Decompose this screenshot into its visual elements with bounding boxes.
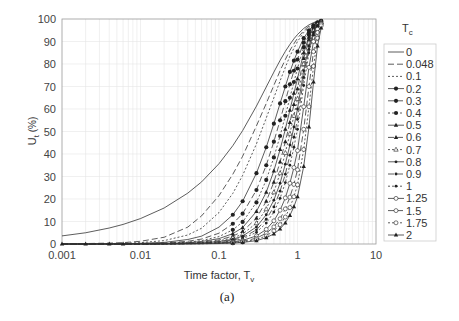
legend-label: 0.6 xyxy=(406,131,421,143)
x-tick-label: 1 xyxy=(294,249,300,261)
legend-label: 0.9 xyxy=(406,168,421,180)
y-axis-ticks: 0102030405060708090100 xyxy=(38,13,56,250)
x-tick-label: 0.001 xyxy=(48,249,76,261)
legend-label: 0.048 xyxy=(406,58,434,70)
legend-label: 0 xyxy=(406,46,412,58)
x-axis-ticks: 0.0010.010.1110 xyxy=(48,249,382,261)
x-tick-label: 10 xyxy=(370,249,382,261)
y-tick-label: 10 xyxy=(44,216,56,228)
y-tick-label: 40 xyxy=(44,148,56,160)
y-tick-label: 70 xyxy=(44,81,56,93)
y-tick-label: 100 xyxy=(38,13,56,25)
legend-label: 1.25 xyxy=(406,192,427,204)
y-tick-label: 20 xyxy=(44,193,56,205)
legend-label: 1 xyxy=(406,180,412,192)
legend-label: 0.1 xyxy=(406,70,421,82)
svg-text:Ut (%): Ut (%) xyxy=(26,117,41,146)
legend-label: 0.8 xyxy=(406,156,421,168)
legend-title: Tc xyxy=(402,22,413,37)
legend-label: 0.4 xyxy=(406,107,421,119)
legend-label: 0.2 xyxy=(406,83,421,95)
y-tick-label: 90 xyxy=(44,36,56,48)
x-tick-label: 0.1 xyxy=(211,249,226,261)
grid-lines xyxy=(62,19,376,244)
y-tick-label: 50 xyxy=(44,126,56,138)
legend-label: 1.5 xyxy=(406,205,421,217)
y-tick-label: 30 xyxy=(44,171,56,183)
legend-label: 2 xyxy=(406,229,412,241)
x-axis-label: Time factor, Tv xyxy=(184,269,255,284)
consolidation-chart: 0102030405060708090100 0.0010.010.1110 T… xyxy=(0,0,459,321)
legend-label: 0.5 xyxy=(406,119,421,131)
y-tick-label: 80 xyxy=(44,58,56,70)
legend-label: 0.7 xyxy=(406,144,421,156)
legend-label: 0.3 xyxy=(406,95,421,107)
figure-caption: (a) xyxy=(220,289,234,304)
y-axis-label: Ut (%) xyxy=(26,117,41,146)
y-tick-label: 60 xyxy=(44,103,56,115)
legend-label: 1.75 xyxy=(406,217,427,229)
x-tick-label: 0.01 xyxy=(130,249,151,261)
